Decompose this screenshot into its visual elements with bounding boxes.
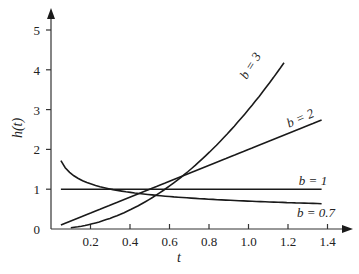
label-b1: b = 1: [299, 173, 327, 188]
label-b3: b = 3: [236, 49, 264, 81]
x-tick-label: 1.2: [280, 234, 296, 249]
y-axis-title: h(t): [10, 118, 26, 139]
x-ticks: 0.20.40.60.81.01.21.4: [82, 224, 336, 249]
curve-series-3: [61, 161, 322, 204]
y-tick-label: 2: [34, 142, 41, 157]
y-tick-label: 4: [34, 63, 41, 78]
y-axis-arrow-icon: [47, 8, 55, 19]
curve-series-1: [61, 120, 322, 225]
curve-series-0: [71, 63, 284, 228]
x-tick-label: 1.4: [319, 234, 336, 249]
y-ticks: 012345: [34, 23, 52, 237]
y-tick-label: 0: [34, 222, 41, 237]
x-axis-title: t: [177, 250, 182, 265]
x-tick-label: 0.8: [201, 234, 217, 249]
chart-svg: 012345 0.20.40.60.81.01.21.4 t h(t) b = …: [0, 0, 359, 274]
y-tick-label: 3: [34, 103, 41, 118]
x-tick-label: 0.2: [82, 234, 98, 249]
label-b07: b = 0.7: [297, 205, 336, 220]
label-b2: b = 2: [284, 105, 316, 130]
curves: [61, 63, 322, 228]
y-tick-label: 5: [34, 23, 41, 38]
x-axis-arrow-icon: [342, 225, 353, 233]
x-tick-label: 1.0: [240, 234, 256, 249]
x-tick-label: 0.4: [122, 234, 139, 249]
y-tick-label: 1: [34, 182, 41, 197]
x-tick-label: 0.6: [161, 234, 178, 249]
